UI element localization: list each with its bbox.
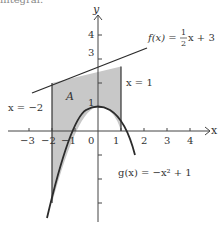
f-label-denominator: 2 bbox=[181, 39, 186, 48]
x-axis-label: x bbox=[211, 124, 218, 137]
y-ticks bbox=[98, 35, 102, 203]
area-between-curves-figure: y x −3 −2 −1 0 1 2 3 4 1 3 4 f(x) = 1 2 … bbox=[0, 0, 219, 226]
x-tick-label: 0 bbox=[88, 135, 94, 146]
g-label: g(x) = −x² + 1 bbox=[118, 167, 192, 178]
x-tick-label: 3 bbox=[164, 135, 170, 146]
y-axis-label: y bbox=[92, 3, 100, 16]
region-a-label: A bbox=[65, 90, 74, 103]
f-label: f(x) = bbox=[147, 32, 177, 43]
x-tick-label: −1 bbox=[61, 135, 76, 146]
y-tick-label: 3 bbox=[88, 47, 94, 58]
y-tick-label: 1 bbox=[88, 97, 94, 108]
f-label-text: f(x) = bbox=[147, 32, 177, 43]
f-label-numerator: 1 bbox=[181, 28, 186, 37]
left-bound-label: x = −2 bbox=[8, 102, 43, 113]
y-tick-label: 4 bbox=[88, 29, 94, 40]
x-tick-label: −2 bbox=[41, 135, 56, 146]
x-tick-label: 2 bbox=[141, 135, 147, 146]
x-tick-label: 1 bbox=[113, 135, 119, 146]
x-tick-label: −3 bbox=[20, 135, 35, 146]
f-label-tail: x + 3 bbox=[188, 32, 215, 43]
right-bound-label: x = 1 bbox=[126, 77, 153, 88]
x-tick-label: 4 bbox=[187, 135, 193, 146]
